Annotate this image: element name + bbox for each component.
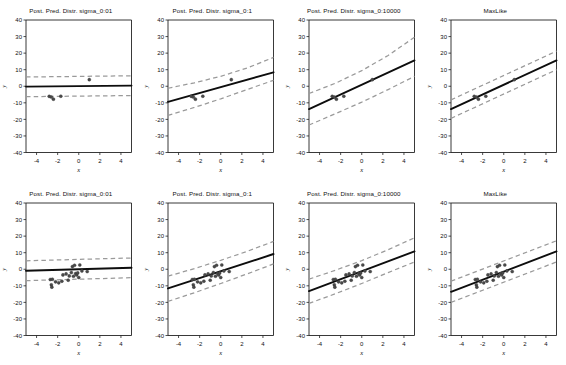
y-tick-label: 30 (157, 34, 164, 40)
data-point (88, 78, 91, 81)
y-tick-label: -30 (155, 316, 164, 322)
y-tick-label: -40 (155, 150, 164, 156)
predictive-band-upper (26, 76, 132, 77)
data-point (335, 98, 338, 101)
predictive-band-upper (168, 57, 274, 88)
y-tick-label: 10 (440, 249, 447, 255)
predictive-band-lower (451, 70, 557, 119)
y-axis-label: y (425, 267, 432, 271)
data-point (482, 281, 485, 284)
x-tick-label: 4 (544, 158, 548, 164)
y-tick-label: -20 (438, 117, 447, 123)
data-point (60, 279, 63, 282)
y-tick-label: 0 (19, 83, 23, 89)
y-tick-label: 20 (15, 50, 22, 56)
y-tick-label: -20 (13, 299, 22, 305)
y-tick-label: 30 (298, 216, 305, 222)
data-point (70, 271, 73, 274)
data-point (342, 95, 345, 98)
x-tick-label: -2 (338, 340, 344, 346)
panel-plot-area: 403020100-10-20-30-40-4-2024xy (142, 0, 284, 183)
data-point (343, 279, 346, 282)
predictive-band-upper (26, 257, 132, 260)
data-point (52, 98, 55, 101)
y-axis-label: y (425, 85, 432, 89)
y-tick-label: -30 (296, 316, 305, 322)
x-tick-label: 0 (502, 158, 506, 164)
data-point (484, 95, 487, 98)
predictive-band-upper (451, 51, 557, 100)
plot-panel-7: MaxLike403020100-10-20-30-40-4-2024xy (425, 183, 566, 365)
x-tick-label: 4 (402, 340, 406, 346)
data-point (344, 273, 347, 276)
y-tick-label: -40 (438, 150, 447, 156)
y-tick-label: -20 (438, 299, 447, 305)
y-tick-label: -30 (13, 316, 22, 322)
x-tick-label: 4 (402, 158, 406, 164)
y-tick-label: -40 (296, 332, 305, 338)
y-tick-label: 40 (440, 200, 447, 206)
data-point (351, 274, 354, 277)
x-tick-label: -2 (479, 340, 485, 346)
data-point (219, 275, 222, 278)
y-axis-label: y (0, 267, 7, 271)
y-tick-label: -40 (438, 332, 447, 338)
x-tick-label: 0 (219, 158, 223, 164)
plot-panel-0: Post. Pred. Distr. sigma_0:01403020100-1… (0, 0, 142, 183)
data-point (86, 270, 89, 273)
data-point (333, 285, 336, 288)
panel-plot-area: 403020100-10-20-30-40-4-2024xy (425, 0, 566, 183)
data-point (337, 280, 340, 283)
x-tick-label: 0 (77, 158, 81, 164)
data-point (67, 278, 70, 281)
y-tick-label: -10 (13, 283, 22, 289)
plot-panel-5: Post. Pred. Distr. sigma_0:1403020100-10… (142, 183, 284, 365)
y-tick-label: -10 (155, 100, 164, 106)
plot-panel-4: Post. Pred. Distr. sigma_0:01403020100-1… (0, 183, 142, 365)
x-tick-label: -2 (479, 158, 485, 164)
data-point (494, 271, 497, 274)
data-point (497, 263, 500, 266)
data-point (199, 281, 202, 284)
predictive-band-lower (26, 96, 132, 97)
y-tick-label: -40 (296, 150, 305, 156)
data-point (59, 95, 62, 98)
data-point (220, 263, 223, 266)
data-point (475, 285, 478, 288)
y-tick-label: 30 (15, 34, 22, 40)
y-tick-label: -10 (155, 283, 164, 289)
y-axis-label: y (142, 267, 149, 271)
data-point (355, 274, 358, 277)
data-point (61, 273, 64, 276)
data-point (475, 277, 478, 280)
panel-plot-area: 403020100-10-20-30-40-4-2024xy (283, 183, 425, 365)
data-point (229, 78, 232, 81)
x-tick-label: -4 (458, 158, 464, 164)
data-point (209, 274, 212, 277)
x-axis-label: x (501, 166, 505, 173)
x-tick-label: -2 (55, 340, 61, 346)
data-point (211, 271, 214, 274)
y-tick-label: 40 (440, 17, 447, 23)
x-tick-label: -4 (175, 340, 181, 346)
x-tick-label: 2 (381, 158, 385, 164)
y-tick-label: 10 (15, 249, 22, 255)
predictive-mean-line (451, 60, 557, 109)
x-tick-label: 0 (77, 340, 81, 346)
x-axis-label: x (359, 348, 363, 355)
y-tick-label: 20 (157, 233, 164, 239)
predictive-band-lower (309, 261, 415, 302)
y-tick-label: 40 (298, 200, 305, 206)
panel-plot-area: 403020100-10-20-30-40-4-2024xy (0, 183, 142, 365)
data-point (485, 279, 488, 282)
y-tick-label: 10 (157, 67, 164, 73)
data-point (195, 280, 198, 283)
x-tick-label: 2 (523, 340, 527, 346)
data-point (50, 285, 53, 288)
x-axis-label: x (218, 348, 222, 355)
data-point (501, 271, 504, 274)
y-tick-label: 20 (15, 233, 22, 239)
y-tick-label: 30 (298, 34, 305, 40)
x-tick-label: -4 (175, 158, 181, 164)
y-tick-label: 20 (440, 50, 447, 56)
